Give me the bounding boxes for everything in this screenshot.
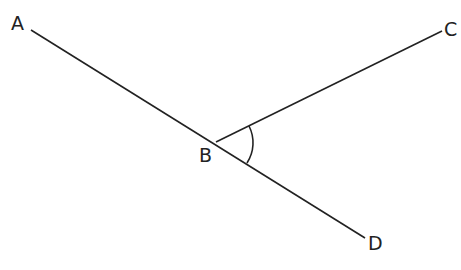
point-label-b: B: [199, 146, 212, 165]
point-label-d: D: [368, 234, 383, 253]
point-label-c: C: [444, 20, 457, 39]
diagram-canvas: A B C D: [0, 0, 461, 270]
angle-arc: [247, 126, 253, 163]
line-ad: [31, 30, 365, 238]
ray-bc: [216, 31, 442, 142]
point-label-a: A: [11, 14, 24, 33]
angle-diagram: [0, 0, 461, 270]
